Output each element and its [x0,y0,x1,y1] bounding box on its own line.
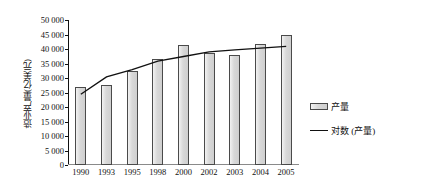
x-axis-tick-label: 2005 [274,167,299,183]
y-axis-tick-label: 45 000 [20,31,64,39]
x-axis-tick-label: 2000 [171,167,196,183]
bar-slot [94,20,119,165]
bar-slot [68,20,93,165]
bar-slot [120,20,145,165]
bar-swatch-icon [310,103,328,110]
bar-slot [222,20,247,165]
y-axis-tick-label: 10 000 [20,132,64,140]
y-axis-tick-label: 25 000 [20,89,64,97]
bar-slot [145,20,170,165]
bar [281,35,292,165]
bar [178,45,189,165]
legend-item-bar: 产量 [310,100,420,113]
bar-series [68,20,299,165]
legend-label-line: 对数 (产量) [331,124,375,137]
x-axis-tick-label: 2003 [222,167,247,183]
bar-slot [248,20,273,165]
bar-slot [197,20,222,165]
plot-area [68,20,299,165]
y-axis-tick-label: 50 000 [20,16,64,24]
legend-label-bar: 产量 [331,100,349,113]
y-axis-tick-labels: 50 00045 00040 00035 00030 00025 00020 0… [20,0,64,193]
bar [255,44,266,165]
bar-slot [171,20,196,165]
y-axis-tick-label: 30 000 [20,74,64,82]
y-axis-tick-label: 40 000 [20,45,64,53]
chart-container: 造业产量(亿美元) 50 00045 00040 00035 00030 000… [0,0,427,193]
y-axis-tick-label: 35 000 [20,60,64,68]
legend-item-line: 对数 (产量) [310,124,420,137]
y-axis-tick-label: 0 [20,161,64,169]
y-axis-tick-label: 15 000 [20,118,64,126]
x-axis-tick-labels: 199019931995199820002002200320042005 [68,167,299,183]
bar [101,85,112,165]
legend: 产量 对数 (产量) [310,100,420,148]
bar [75,87,86,165]
x-axis-tick-label: 1998 [145,167,170,183]
line-swatch-icon [310,130,328,131]
bar [229,55,240,165]
bar [204,53,215,165]
x-axis-tick-label: 1993 [94,167,119,183]
y-axis-tick-label: 20 000 [20,103,64,111]
y-axis-tick-mark [65,165,68,166]
x-axis-tick-label: 2004 [248,167,273,183]
x-axis-tick-label: 2002 [197,167,222,183]
bar [152,59,163,165]
y-axis-tick-label: 5 000 [20,147,64,155]
bar-slot [274,20,299,165]
bar [127,71,138,165]
x-axis-tick-label: 1995 [120,167,145,183]
x-axis-tick-label: 1990 [68,167,93,183]
